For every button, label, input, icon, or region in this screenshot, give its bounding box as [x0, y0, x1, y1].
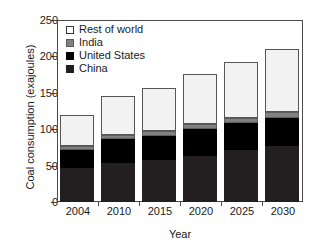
- x-tick-label-2030: 2030: [261, 206, 305, 217]
- x-tick-label-2004: 2004: [56, 206, 100, 217]
- y-tick-label-0: 0: [28, 197, 58, 208]
- segment-rest-of-world-2020: [183, 74, 217, 124]
- y-tick-label-150: 150: [28, 88, 58, 99]
- segment-united-states-2020: [183, 129, 217, 156]
- y-axis-title: Coal consumption (exajoules): [24, 17, 36, 217]
- segment-china-2004: [60, 168, 94, 202]
- legend-item-india: India: [66, 37, 145, 48]
- legend-item-united-states: United States: [66, 50, 145, 61]
- y-tick-label-50: 50: [28, 161, 58, 172]
- united-states-swatch-icon: [66, 52, 74, 60]
- x-tick-label-2025: 2025: [220, 206, 264, 217]
- china-swatch-icon: [66, 65, 74, 73]
- segment-india-2004: [60, 146, 94, 150]
- segment-china-2020: [183, 156, 217, 202]
- segment-rest-of-world-2015: [142, 88, 176, 132]
- legend-label: China: [79, 63, 108, 74]
- y-tick-label-250: 250: [28, 15, 58, 26]
- segment-india-2025: [224, 118, 258, 123]
- legend-label: United States: [79, 50, 145, 61]
- segment-india-2010: [101, 135, 135, 139]
- coal-consumption-stacked-bar-chart: Coal consumption (exajoules) 250 200 150…: [0, 0, 320, 249]
- chart-legend: Rest of world India United States China: [66, 24, 145, 76]
- segment-india-2030: [265, 112, 299, 118]
- y-tick-label-200: 200: [28, 51, 58, 62]
- legend-item-china: China: [66, 63, 145, 74]
- x-tick-label-2020: 2020: [179, 206, 223, 217]
- india-swatch-icon: [66, 39, 74, 47]
- y-tick-label-100: 100: [28, 124, 58, 135]
- segment-united-states-2004: [60, 150, 94, 167]
- legend-item-rest-of-world: Rest of world: [66, 24, 145, 35]
- x-axis-title: Year: [57, 228, 303, 240]
- x-tick-label-2015: 2015: [138, 206, 182, 217]
- segment-rest-of-world-2004: [60, 115, 94, 146]
- x-tick-label-2010: 2010: [97, 206, 141, 217]
- segment-united-states-2015: [142, 136, 176, 160]
- segment-rest-of-world-2025: [224, 62, 258, 117]
- segment-china-2025: [224, 150, 258, 202]
- segment-china-2010: [101, 163, 135, 202]
- legend-label: Rest of world: [79, 24, 143, 35]
- segment-china-2015: [142, 160, 176, 202]
- segment-united-states-2010: [101, 139, 135, 162]
- rest-of-world-swatch-icon: [66, 26, 74, 34]
- segment-india-2015: [142, 131, 176, 135]
- segment-india-2020: [183, 124, 217, 129]
- segment-united-states-2025: [224, 123, 258, 151]
- segment-rest-of-world-2010: [101, 96, 135, 135]
- legend-label: India: [79, 37, 103, 48]
- segment-china-2030: [265, 146, 299, 202]
- segment-united-states-2030: [265, 118, 299, 146]
- segment-rest-of-world-2030: [265, 49, 299, 112]
